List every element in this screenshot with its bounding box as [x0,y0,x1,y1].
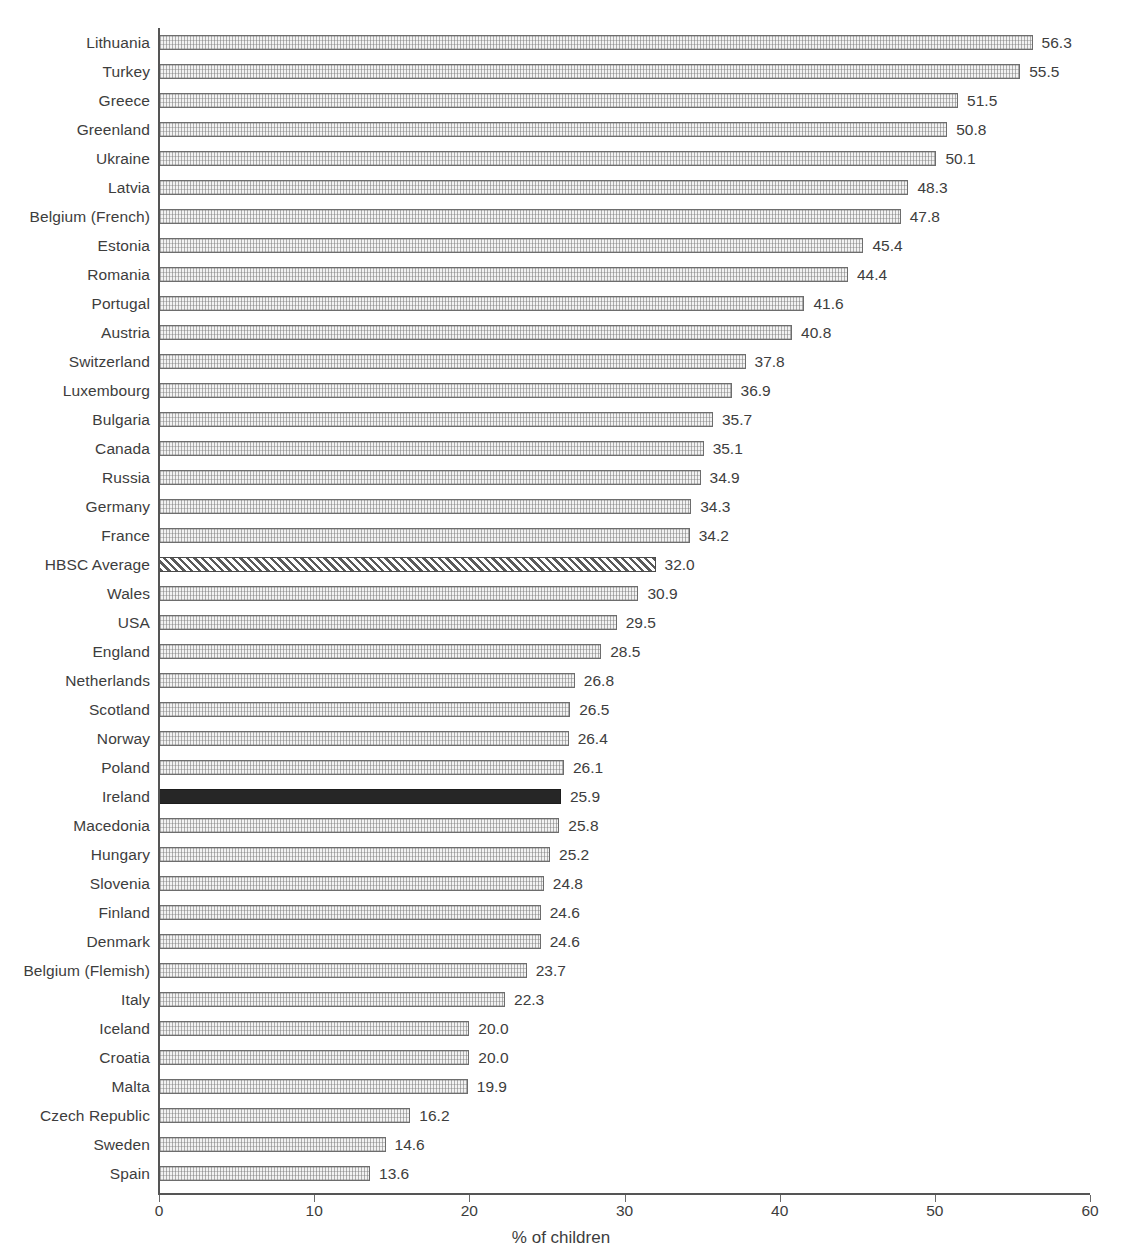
bar-row: Finland24.6 [0,898,1122,927]
bar-value-label: 25.2 [559,840,589,869]
category-label: Portugal [91,289,150,318]
bar [159,354,746,369]
bar [159,296,804,311]
bar-value-label: 29.5 [626,608,656,637]
bar-row: Czech Republic16.2 [0,1101,1122,1130]
bar [159,731,569,746]
bar-track [159,1137,386,1152]
bar-row: Greenland50.8 [0,115,1122,144]
x-axis-tick [1090,1195,1091,1202]
bar-row: Luxembourg36.9 [0,376,1122,405]
category-label: Greece [99,86,150,115]
x-axis-tick [159,1195,160,1202]
category-label: Belgium (French) [30,202,150,231]
bar-row: Malta19.9 [0,1072,1122,1101]
bar-value-label: 48.3 [917,173,947,202]
bar-track [159,35,1033,50]
bar [159,876,544,891]
bar [159,122,947,137]
bar [159,789,561,804]
bar-track [159,151,936,166]
bar [159,644,601,659]
y-axis-line [158,28,160,1194]
bar-value-label: 41.6 [813,289,843,318]
category-label: Russia [102,463,150,492]
bar-track [159,180,908,195]
bar [159,963,527,978]
bar-value-label: 36.9 [741,376,771,405]
bar-row: Scotland26.5 [0,695,1122,724]
bar-value-label: 34.9 [710,463,740,492]
bar-track [159,876,544,891]
category-label: Slovenia [90,869,150,898]
x-axis-title: % of children [0,1228,1122,1248]
bar-track [159,267,848,282]
bar-value-label: 34.3 [700,492,730,521]
category-label: Canada [95,434,150,463]
category-label: Scotland [89,695,150,724]
bar-value-label: 28.5 [610,637,640,666]
category-label: Netherlands [65,666,150,695]
bar [159,499,691,514]
x-axis-tick [780,1195,781,1202]
bar [159,1021,469,1036]
bar-track [159,325,792,340]
bar [159,1166,370,1181]
bar [159,180,908,195]
bar-row: Norway26.4 [0,724,1122,753]
bar-value-label: 32.0 [665,550,695,579]
category-label: Germany [86,492,150,521]
category-label: France [101,521,150,550]
bar-row: Bulgaria35.7 [0,405,1122,434]
bar-row: Switzerland37.8 [0,347,1122,376]
bar-track [159,644,601,659]
bar-row: Austria40.8 [0,318,1122,347]
x-axis-tick-label: 0 [155,1202,164,1220]
bar-track [159,122,947,137]
bar-track [159,296,804,311]
bar [159,151,936,166]
bar-value-label: 24.6 [550,898,580,927]
plot-area: Lithuania56.3Turkey55.5Greece51.5Greenla… [0,0,1122,1195]
bar-row: Wales30.9 [0,579,1122,608]
bar-track [159,847,550,862]
bar-value-label: 37.8 [755,347,785,376]
bar-value-label: 55.5 [1029,57,1059,86]
bar-track [159,412,713,427]
bar [159,93,958,108]
bar [159,238,863,253]
bar-row: Croatia20.0 [0,1043,1122,1072]
bar-value-label: 14.6 [395,1130,425,1159]
bar-row: Estonia45.4 [0,231,1122,260]
bar [159,470,701,485]
bar-value-label: 56.3 [1042,28,1072,57]
bar-track [159,1108,410,1123]
bar [159,441,704,456]
bar-row: Hungary25.2 [0,840,1122,869]
bar-track [159,731,569,746]
bar-value-label: 50.1 [945,144,975,173]
bar-row: Turkey55.5 [0,57,1122,86]
bar-value-label: 24.6 [550,927,580,956]
bar-value-label: 40.8 [801,318,831,347]
bar [159,1079,468,1094]
category-label: Denmark [86,927,150,956]
category-label: Lithuania [86,28,150,57]
bar [159,586,638,601]
category-label: Turkey [103,57,150,86]
bar-track [159,818,559,833]
x-axis-tick [935,1195,936,1202]
bar [159,992,505,1007]
bar-row: Canada35.1 [0,434,1122,463]
bar-track [159,441,704,456]
bar [159,383,732,398]
bar-value-label: 25.8 [568,811,598,840]
category-label: England [92,637,150,666]
bar [159,847,550,862]
bar [159,35,1033,50]
bar-value-label: 20.0 [478,1014,508,1043]
bar-track [159,1079,468,1094]
category-label: Bulgaria [92,405,150,434]
bar [159,934,541,949]
bar-track [159,615,617,630]
